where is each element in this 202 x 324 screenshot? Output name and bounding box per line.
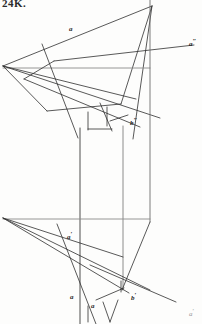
point-label-a-low-mid: a — [91, 303, 95, 310]
figure-line-spur-to-b-prime — [96, 288, 124, 300]
point-label-prime: ′ — [193, 307, 195, 315]
figure-line-v-left-lower — [103, 302, 110, 322]
figure-line-axis-a-dprime — [54, 45, 194, 61]
figure-line-v-right-lower — [110, 300, 118, 322]
point-label-a-prime-mid: a′ — [67, 231, 72, 241]
point-label-b-dprime: b″ — [130, 117, 137, 127]
point-label-a-low-left: a — [70, 294, 74, 301]
figure-line-steep-cross-upper — [42, 44, 78, 138]
figure-line-left-vertex-to-fan-c — [3, 66, 47, 111]
point-label-base: a — [69, 25, 73, 33]
figure-line-lower-left-to-b-prime — [3, 218, 150, 290]
point-label-prime: ″ — [134, 116, 138, 124]
figure-line-left-vertex-to-fan-a — [3, 66, 136, 99]
figure-line-lower-right-edge — [122, 222, 150, 290]
figure-line-group — [3, 0, 194, 324]
figure-line-axis-a-dprime-ext — [24, 61, 54, 79]
figure-line-left-vertex-to-fan-b — [3, 66, 160, 118]
point-label-a-prime-br: a′ — [189, 308, 194, 318]
point-label-b-prime: b′ — [131, 292, 136, 302]
point-label-base: a — [70, 293, 74, 301]
figure-line-upper-apex-to-left-vertex — [3, 6, 152, 66]
point-label-a-dprime: a″ — [189, 38, 196, 48]
point-label-prime: ′ — [135, 291, 137, 299]
figure-line-lower-left-to-mid-right — [3, 218, 123, 257]
figure-page: 24K. aa″b″a′aab′a′ — [0, 0, 202, 324]
figure-line-fan-c-to-apexline — [47, 104, 121, 111]
geometry-figure — [0, 0, 202, 324]
point-label-base: a — [91, 302, 95, 310]
point-label-prime: ″ — [193, 37, 197, 45]
figure-line-oblique-to-b-dprime — [24, 79, 140, 127]
figure-line-curve-chord-upper — [100, 103, 112, 131]
figure-line-oblique-lower-long — [3, 218, 129, 293]
figure-line-upper-apex-to-lower-right — [121, 6, 152, 104]
point-label-a-top: a — [69, 26, 73, 33]
point-label-prime: ′ — [71, 230, 73, 238]
